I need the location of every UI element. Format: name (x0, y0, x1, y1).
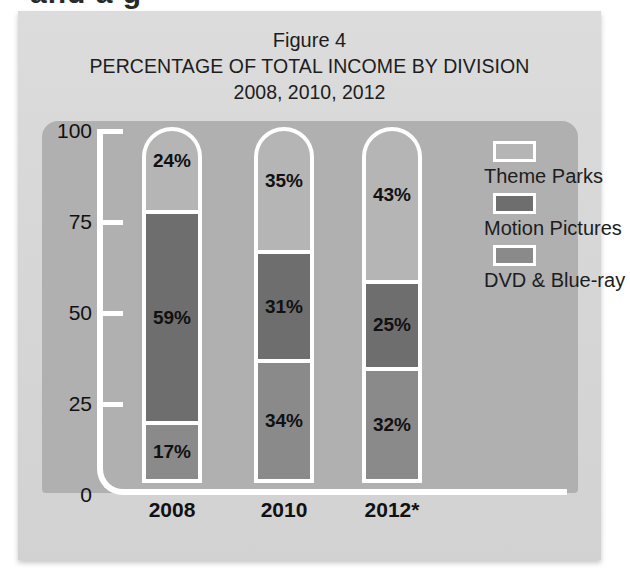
y-tick-50 (97, 311, 123, 316)
legend-label: DVD & Blue-ray (484, 267, 630, 293)
bar-2012[interactable]: 43%25%32% (362, 127, 422, 483)
bar-2010[interactable]: 35%31%34% (254, 127, 314, 483)
bar-segment-theme-parks[interactable]: 24% (142, 127, 202, 214)
y-tick-25 (97, 402, 123, 407)
bar-segment-dvd-blue-ray[interactable]: 32% (362, 367, 422, 483)
y-axis-label-100: 100 (42, 120, 92, 141)
segment-value-label: 25% (373, 314, 411, 336)
legend-item-motion-pictures[interactable]: Motion Pictures (484, 193, 630, 241)
y-axis-label-50: 50 (42, 302, 92, 323)
x-axis-label-2008: 2008 (117, 498, 227, 522)
segment-value-label: 34% (265, 410, 303, 432)
legend-swatch-theme-parks (493, 141, 536, 162)
segment-value-label: 35% (265, 170, 303, 192)
figure-titles: Figure 4 PERCENTAGE OF TOTAL INCOME BY D… (18, 27, 601, 105)
figure-panel: Figure 4 PERCENTAGE OF TOTAL INCOME BY D… (18, 11, 601, 560)
segment-value-label: 24% (153, 150, 191, 172)
figure-title: PERCENTAGE OF TOTAL INCOME BY DIVISION (18, 53, 601, 79)
segment-value-label: 31% (265, 296, 303, 318)
legend-label: Motion Pictures (484, 215, 630, 241)
segment-value-label: 59% (153, 307, 191, 329)
bar-segment-theme-parks[interactable]: 35% (254, 127, 314, 254)
y-axis-label-75: 75 (42, 211, 92, 232)
legend-swatch-dvd-bluray (493, 245, 536, 266)
y-tick-75 (97, 220, 123, 225)
y-axis-label-0: 0 (42, 484, 92, 505)
bar-segment-theme-parks[interactable]: 43% (362, 127, 422, 284)
segment-value-label: 43% (373, 184, 411, 206)
bar-segment-dvd-blue-ray[interactable]: 34% (254, 359, 314, 483)
page-bleed-glyphs: and a g (30, 0, 142, 9)
y-tick-100 (97, 129, 123, 134)
bar-segment-motion-pictures[interactable]: 31% (254, 250, 314, 363)
legend: Theme ParksMotion PicturesDVD & Blue-ray (484, 141, 630, 297)
legend-item-theme-parks[interactable]: Theme Parks (484, 141, 630, 189)
figure-number: Figure 4 (18, 27, 601, 53)
figure-subtitle: 2008, 2010, 2012 (18, 79, 601, 105)
segment-value-label: 17% (153, 441, 191, 463)
legend-swatch-motion-pictures (493, 193, 536, 214)
bar-segment-motion-pictures[interactable]: 25% (362, 280, 422, 371)
legend-item-dvd-blue-ray[interactable]: DVD & Blue-ray (484, 245, 630, 293)
segment-value-label: 32% (373, 414, 411, 436)
page-bleed-text: and a g (0, 0, 620, 9)
x-axis-label-2012: 2012* (337, 498, 447, 522)
bar-2008[interactable]: 24%59%17% (142, 127, 202, 483)
x-axis-label-2010: 2010 (229, 498, 339, 522)
legend-label: Theme Parks (484, 163, 630, 189)
bar-segment-dvd-blue-ray[interactable]: 17% (142, 421, 202, 483)
y-axis-label-25: 25 (42, 393, 92, 414)
bar-segment-motion-pictures[interactable]: 59% (142, 210, 202, 425)
